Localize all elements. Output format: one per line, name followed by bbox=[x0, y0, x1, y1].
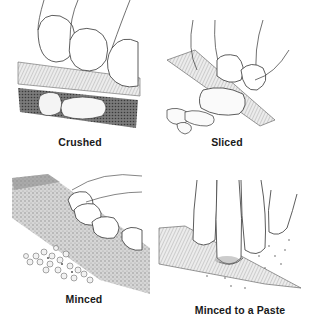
caption-sliced: Sliced bbox=[211, 136, 243, 148]
panel-minced: Minced bbox=[0, 160, 155, 328]
caption-crushed: Crushed bbox=[58, 136, 101, 148]
panel-paste: Minced to a Paste bbox=[155, 160, 309, 328]
caption-paste: Minced to a Paste bbox=[195, 304, 285, 316]
paste-illustration bbox=[155, 160, 309, 328]
panel-sliced: Sliced bbox=[155, 0, 309, 160]
caption-minced: Minced bbox=[66, 293, 103, 305]
panel-crushed: Crushed bbox=[0, 0, 155, 160]
